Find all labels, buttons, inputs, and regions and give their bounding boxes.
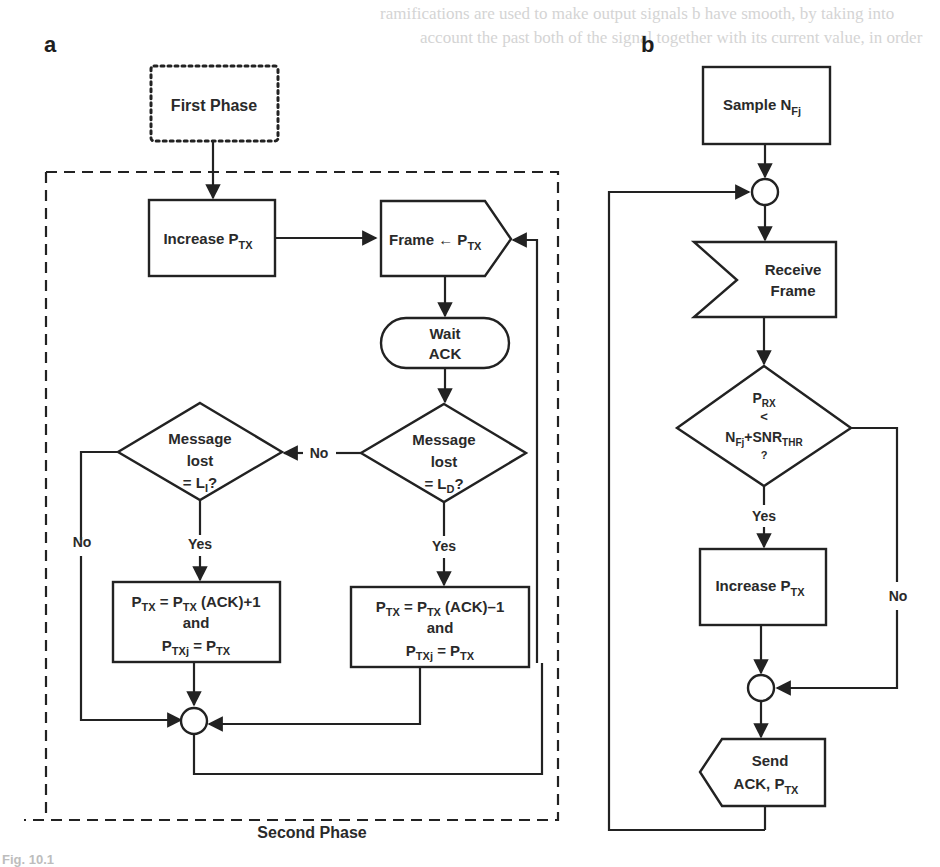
svg-text:Frame: Frame	[770, 282, 815, 299]
svg-text:?: ?	[761, 449, 768, 461]
increase-ptx-b-label: Increase P	[715, 577, 790, 594]
merge-connector-b-bottom	[748, 675, 774, 701]
svg-text:Message: Message	[168, 430, 231, 447]
decision-lost-ld: Message lost = LD?	[361, 404, 526, 502]
edge-decrease-to-merge	[209, 667, 420, 724]
ack-label: ACK	[429, 345, 462, 362]
edge-no-b-upper	[851, 428, 897, 582]
flowchart-canvas: a First Phase Second Phase Increase PTX …	[0, 0, 940, 867]
svg-text:lost: lost	[187, 452, 214, 469]
svg-text:Send: Send	[752, 752, 789, 769]
edge-yes-b-label: Yes	[752, 508, 776, 524]
sample-label: Sample N	[723, 96, 791, 113]
increase-ptx-label: Increase P	[163, 230, 238, 247]
edge-no-li-label: No	[73, 534, 92, 550]
svg-text:and: and	[427, 619, 454, 636]
edge-yes-li-label: Yes	[188, 536, 212, 552]
receive-frame-node: Receive Frame	[694, 242, 836, 317]
frame-ptx-label: Frame ← P	[389, 231, 467, 248]
svg-text:Message: Message	[412, 431, 475, 448]
edge-merge-loop	[194, 663, 542, 774]
update-increase-box: PTX = PTX (ACK)+1 and PTXj = PTX	[113, 582, 280, 662]
svg-text:Receive: Receive	[765, 261, 822, 278]
svg-text:<: <	[760, 409, 768, 424]
wait-label: Wait	[429, 325, 460, 342]
sample-nfj-box: Sample NFj	[703, 67, 830, 144]
decision-lost-li: Message lost = LI?	[118, 403, 282, 500]
svg-text:and: and	[183, 614, 210, 631]
panel-a-label: a	[44, 32, 57, 57]
update-decrease-box: PTX = PTX (ACK)–1 and PTXj = PTX	[351, 587, 529, 667]
increase-ptx-b-box: Increase PTX	[700, 549, 826, 625]
wait-ack-node: Wait ACK	[381, 318, 509, 368]
send-ack-node: Send ACK, PTX	[700, 739, 825, 806]
increase-ptx-box: Increase PTX	[149, 200, 275, 276]
decision-prx: PRX < NFj+SNRTHR ?	[677, 366, 851, 486]
edge-yes-ld-label: Yes	[432, 538, 456, 554]
svg-text:lost: lost	[431, 453, 458, 470]
edge-no-li-upper	[81, 452, 118, 540]
edge-no-label: No	[310, 445, 329, 461]
first-phase-box: First Phase	[151, 66, 278, 141]
second-phase-label: Second Phase	[257, 824, 366, 841]
frame-ptx-node: Frame ← PTX	[381, 201, 511, 276]
first-phase-label: First Phase	[171, 97, 257, 114]
merge-connector-a	[181, 708, 207, 734]
panel-b-label: b	[641, 32, 654, 57]
edge-no-b-label: No	[889, 588, 908, 604]
figure-caption: Fig. 10.1	[2, 852, 54, 867]
merge-connector-b-top	[752, 179, 778, 205]
